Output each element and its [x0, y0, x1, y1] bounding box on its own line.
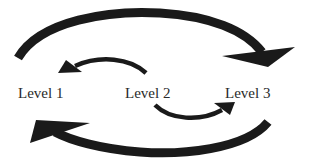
- node-label-level-1: Level 1: [18, 86, 63, 101]
- arrow-level2-to-level3: [155, 102, 235, 118]
- node-label-level-2: Level 2: [125, 86, 170, 101]
- level-cycle-diagram: Level 1 Level 2 Level 3: [0, 0, 311, 161]
- arrow-level2-to-level1: [58, 59, 146, 73]
- arrows-layer: [0, 0, 311, 161]
- arrow-level1-to-level3: [18, 13, 295, 67]
- node-label-level-3: Level 3: [225, 86, 270, 101]
- arrow-level3-to-level1: [30, 120, 268, 153]
